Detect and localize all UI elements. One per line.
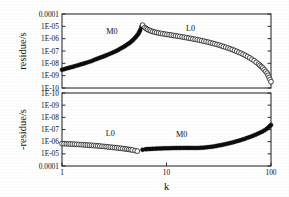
bottom-panel-y-tick-label: 1E-10 <box>41 89 59 98</box>
bottom-panel-m0-annotation: M0 <box>176 130 187 139</box>
data-point-marker <box>135 149 140 154</box>
bottom-panel-y-tick-label: 1E-05 <box>41 149 59 158</box>
bottom-panel-y-tick-labels: 1E-101E-091E-081E-071E-061E-050.0001 <box>39 89 60 171</box>
top-panel-y-tick-label: 1E-05 <box>41 22 59 31</box>
top-panel-y-tick-label: 1E-06 <box>41 34 59 43</box>
bottom-panel-y-tick-label: 1E-09 <box>41 101 59 110</box>
x-axis-tick-label: 1 <box>60 168 64 177</box>
top-panel-l0-annotation: L0 <box>186 24 195 33</box>
top-panel-y-tick-label: 1E-08 <box>41 59 59 68</box>
top-panel-y-tick-label: 1E-09 <box>41 71 59 80</box>
bottom-panel-l0-annotation: L0 <box>106 129 115 138</box>
figure-root: 0.00011E-051E-061E-071E-081E-091E-10 M0 … <box>0 0 289 197</box>
top-panel-y-tick-label: 0.0001 <box>39 10 60 19</box>
bottom-panel-y-tick-label: 1E-07 <box>41 125 59 134</box>
top-panel-y-tick-labels: 0.00011E-051E-061E-071E-081E-091E-10 <box>39 10 60 93</box>
top-panel-y-tick-label: 1E-07 <box>41 47 59 56</box>
bottom-panel-y-tick-label: 0.0001 <box>39 162 60 171</box>
data-point-marker <box>269 79 274 84</box>
x-axis-tick-label: 10 <box>163 168 171 177</box>
bottom-panel-y-tick-label: 1E-06 <box>41 137 59 146</box>
bottom-panel-y-axis-title: -residue/s <box>17 109 28 150</box>
residue-vs-k-chart: 0.00011E-051E-061E-071E-081E-091E-10 M0 … <box>0 0 289 197</box>
data-point-marker <box>269 123 273 127</box>
bottom-panel-y-tick-label: 1E-08 <box>41 113 59 122</box>
top-panel-m0-annotation: M0 <box>106 27 117 36</box>
x-axis-title: k <box>164 181 170 192</box>
x-axis-tick-label: 100 <box>265 168 276 177</box>
top-panel-y-axis-title: residue/s <box>17 32 28 69</box>
